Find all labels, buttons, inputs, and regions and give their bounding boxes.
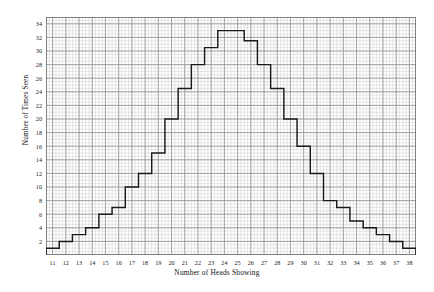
chart-svg — [46, 17, 416, 255]
y-axis-tick: 32 — [20, 34, 42, 41]
y-axis-tick: 6 — [20, 211, 42, 218]
x-axis-tick: 38 — [400, 259, 418, 266]
y-axis-tick: 4 — [20, 224, 42, 231]
plot-area — [46, 17, 416, 255]
y-axis-tick: 16 — [20, 143, 42, 150]
y-axis-tick: 28 — [20, 61, 42, 68]
y-axis-tick: 14 — [20, 156, 42, 163]
y-axis-tick: 12 — [20, 170, 42, 177]
y-axis-tick: 18 — [20, 129, 42, 136]
y-axis-tick: 22 — [20, 102, 42, 109]
y-axis-tick: 26 — [20, 75, 42, 82]
y-axis-tick: 30 — [20, 47, 42, 54]
x-axis-title: Number of Heads Showing — [0, 268, 434, 277]
y-axis-tick: 20 — [20, 115, 42, 122]
y-axis-tick: 34 — [20, 20, 42, 27]
y-axis-tick: 2 — [20, 238, 42, 245]
y-axis-tick: 10 — [20, 183, 42, 190]
y-axis-tick: 24 — [20, 88, 42, 95]
y-axis-tick: 8 — [20, 197, 42, 204]
chart-figure: Number of Times Seen 2468101214161820222… — [0, 0, 434, 292]
